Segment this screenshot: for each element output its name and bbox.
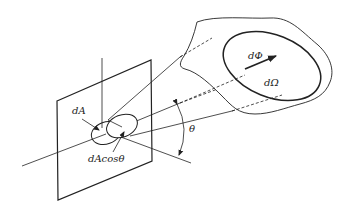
- diagram-canvas: dA dAcosθ dΦ dΩ θ: [0, 0, 343, 211]
- label-solid-angle: dΩ: [264, 78, 279, 88]
- label-angle: θ: [189, 124, 195, 134]
- label-projected-area: dAcosθ: [88, 154, 124, 164]
- diagram-svg: [0, 0, 343, 211]
- angle-arc: [177, 104, 184, 155]
- label-area: dA: [72, 106, 86, 116]
- label-flux: dΦ: [248, 51, 263, 61]
- plane: [57, 60, 152, 200]
- projected-area-ellipse: [103, 110, 141, 142]
- area-pointer: [82, 119, 99, 130]
- irregular-surface: [180, 18, 332, 114]
